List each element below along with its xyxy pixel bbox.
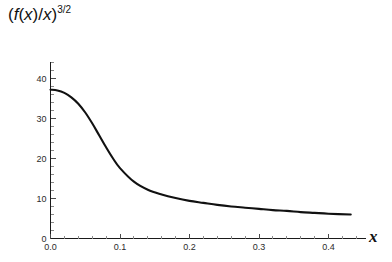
data-curve-line [51, 90, 351, 215]
chart-screenshot: (f(x)/x)3/2 010203040 0.00.10.20.30.4 x [0, 0, 392, 262]
x-axis-label: x [369, 227, 378, 247]
x-axis-ticks [51, 234, 357, 239]
x-axis-tick-labels: 0.00.10.20.30.4 [44, 242, 335, 252]
y-axis-tick-labels: 010203040 [36, 74, 46, 244]
y-tick-label: 30 [36, 114, 46, 124]
x-tick-label: 0.2 [183, 242, 196, 252]
x-tick-label: 0.0 [44, 242, 57, 252]
x-tick-label: 0.3 [253, 242, 266, 252]
plot-area: 010203040 0.00.10.20.30.4 [0, 0, 392, 262]
y-tick-label: 40 [36, 74, 46, 84]
x-tick-label: 0.1 [114, 242, 127, 252]
y-tick-label: 10 [36, 194, 46, 204]
x-tick-label: 0.4 [322, 242, 335, 252]
x-axis-group: 0.00.10.20.30.4 [44, 234, 366, 252]
y-tick-label: 20 [36, 154, 46, 164]
